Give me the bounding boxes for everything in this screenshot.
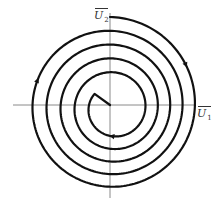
spiral-trajectory (32, 17, 194, 187)
axis-label-u2-main: U (94, 9, 103, 22)
axis-label-u2: U2 (94, 10, 109, 24)
phase-portrait-diagram (0, 0, 218, 205)
overbar (95, 8, 108, 9)
axis-label-u1: U1 (197, 108, 212, 122)
axis-label-u1-main: U (197, 107, 206, 120)
axis-label-u2-sub: 2 (104, 16, 108, 24)
overbar (198, 106, 211, 107)
axis-label-u1-sub: 1 (207, 114, 211, 122)
